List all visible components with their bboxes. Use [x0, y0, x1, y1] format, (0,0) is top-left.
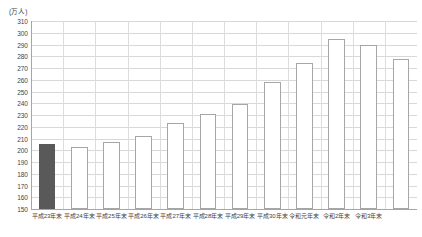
- x-tick-label: 平成25年末: [95, 212, 127, 220]
- y-axis-unit-label: (万人): [9, 8, 27, 16]
- y-tick-label: 230: [6, 112, 28, 119]
- bar: [328, 39, 345, 209]
- y-tick-label: 200: [6, 147, 28, 154]
- y-tick-label: 170: [6, 182, 28, 189]
- y-tick-label: 150: [6, 206, 28, 213]
- bar: [71, 147, 88, 209]
- bar: [200, 114, 217, 209]
- bar: [232, 104, 249, 209]
- y-tick-label: 250: [6, 88, 28, 95]
- y-tick-label: 290: [6, 41, 28, 48]
- bar: [103, 142, 120, 209]
- y-tick-label: 270: [6, 65, 28, 72]
- y-tick-label: 260: [6, 76, 28, 83]
- y-tick-label: 220: [6, 123, 28, 130]
- x-tick-label: 平成30年末: [256, 212, 288, 220]
- y-tick-label: 190: [6, 159, 28, 166]
- x-tick-label: 平成29年末: [224, 212, 256, 220]
- bar: [360, 45, 377, 210]
- bar-chart: (万人) 31030029028027026025024023022021020…: [0, 0, 422, 237]
- x-tick-label: 平成24年末: [63, 212, 95, 220]
- x-tick-label: 平成23年末: [31, 212, 63, 220]
- x-tick-label: 令和3年末: [353, 212, 385, 220]
- y-tick-label: 300: [6, 29, 28, 36]
- y-tick-label: 180: [6, 170, 28, 177]
- x-tick-label: 平成26年末: [128, 212, 160, 220]
- bar: [264, 82, 281, 209]
- x-tick-label: 令和2年末: [321, 212, 353, 220]
- gridline: [31, 209, 417, 210]
- y-tick-label: 310: [6, 18, 28, 25]
- bar: [167, 123, 184, 209]
- y-tick-label: 210: [6, 135, 28, 142]
- bars-layer: [31, 21, 417, 209]
- bar: [135, 136, 152, 209]
- x-tick-label: 平成28年末: [192, 212, 224, 220]
- x-axis-tick-labels: 平成23年末平成24年末平成25年末平成26年末平成27年末平成28年末平成29…: [31, 212, 417, 232]
- y-tick-label: 160: [6, 194, 28, 201]
- y-tick-label: 280: [6, 53, 28, 60]
- bar: [39, 144, 56, 209]
- bar: [393, 59, 410, 209]
- x-tick-label: 令和元年末: [288, 212, 320, 220]
- x-tick-label: 平成27年末: [160, 212, 192, 220]
- y-tick-label: 240: [6, 100, 28, 107]
- bar: [296, 63, 313, 209]
